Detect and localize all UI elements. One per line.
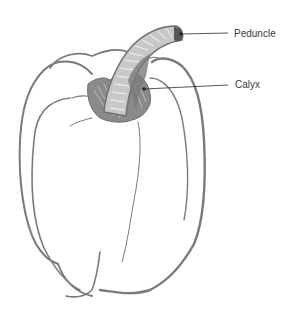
pepper-diagram <box>0 0 290 314</box>
center-crease <box>122 122 140 262</box>
top-left-bump <box>50 50 128 68</box>
calyx-left-fold-2 <box>70 118 92 126</box>
bottom-dimple <box>66 252 100 297</box>
peduncle-leader-dot <box>180 33 183 36</box>
left-inner-contour <box>32 98 80 290</box>
peduncle-label: Peduncle <box>234 28 276 40</box>
left-lobe-outline <box>20 61 92 264</box>
calyx-label: Calyx <box>235 79 260 91</box>
right-inner-contour <box>150 78 188 220</box>
bottom-left-curve <box>58 264 92 296</box>
calyx-leader-line <box>144 85 228 89</box>
peduncle-leader-line <box>181 33 228 34</box>
calyx-leader-dot <box>143 88 146 91</box>
